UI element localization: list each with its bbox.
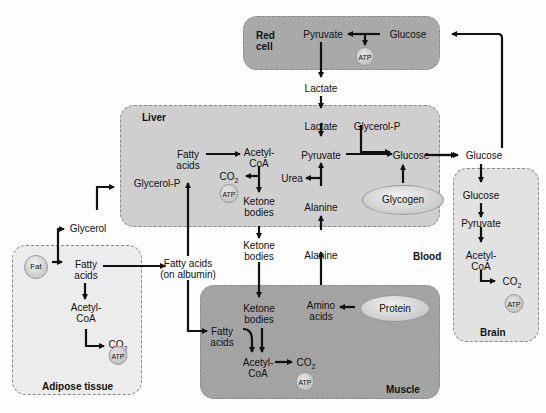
atp-icon: ATP (296, 372, 315, 391)
atp-icon: ATP (505, 294, 524, 313)
liver-alanine: Alanine (304, 202, 337, 213)
blood-fatty-acids-albumin: Fatty acids (on albumin) (160, 258, 216, 280)
liver-title: Liver (142, 112, 166, 123)
atp-icon: ATP (109, 346, 128, 365)
liver-pyruvate: Pyruvate (301, 150, 340, 161)
blood-glycerol: Glycerol (70, 223, 107, 234)
red-cell-glucose: Glucose (390, 29, 427, 40)
brain-glucose: Glucose (463, 190, 500, 201)
brain-pyruvate: Pyruvate (461, 218, 500, 229)
muscle-co2: CO2 (297, 357, 316, 372)
liver-glycerol-p-in: Glycerol-P (134, 178, 181, 189)
muscle-ketone-bodies: Ketone bodies (243, 303, 275, 325)
atp-icon: ATP (220, 184, 239, 203)
red-cell-title: Red cell (256, 30, 286, 52)
muscle-acetyl-coa: Acetyl- CoA (243, 357, 274, 379)
liver-acetyl-coa: Acetyl- CoA (244, 147, 275, 169)
adipose-acetyl-coa: Acetyl- CoA (71, 302, 102, 324)
liver-lactate: Lactate (305, 121, 338, 132)
adipose-title: Adipose tissue (42, 381, 113, 392)
atp-icon: ATP (356, 47, 375, 66)
brain-title: Brain (480, 327, 506, 338)
red-cell-pyruvate: Pyruvate (303, 29, 342, 40)
protein-oval: Protein (360, 295, 430, 322)
liver-fatty-acids: Fatty acids (176, 149, 199, 171)
metabolism-diagram: Red cell Liver Muscle Brain Adipose tiss… (0, 0, 546, 413)
fat-droplet: Fat (24, 255, 48, 279)
muscle-fatty-acids: Fatty acids (210, 326, 233, 348)
liver-glycerol-p: Glycerol-P (354, 121, 401, 132)
blood-alanine: Alanine (304, 250, 337, 261)
adipose-fatty-acids: Fatty acids (74, 259, 97, 281)
blood-glucose: Glucose (466, 150, 503, 161)
liver-glucose: Glucose (393, 150, 430, 161)
muscle-title: Muscle (386, 384, 420, 395)
blood-lactate: Lactate (305, 83, 338, 94)
brain-co2: CO2 (503, 276, 522, 291)
blood-title: Blood (413, 251, 441, 262)
liver-urea: Urea (281, 173, 303, 184)
muscle-amino-acids: Amino acids (307, 300, 335, 322)
glycogen-oval: Glycogen (362, 185, 444, 215)
brain-acetyl-coa: Acetyl- CoA (466, 250, 497, 272)
blood-ketone-bodies: Ketone bodies (243, 240, 275, 262)
liver-ketone-bodies: Ketone bodies (243, 196, 275, 218)
